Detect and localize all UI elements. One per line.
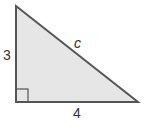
hypotenuse-label: c: [74, 35, 81, 51]
horizontal-leg-label: 4: [73, 105, 81, 121]
vertical-leg-label: 3: [3, 47, 11, 63]
right-triangle: [16, 6, 138, 102]
triangle-diagram: 3 c 4: [0, 0, 151, 128]
